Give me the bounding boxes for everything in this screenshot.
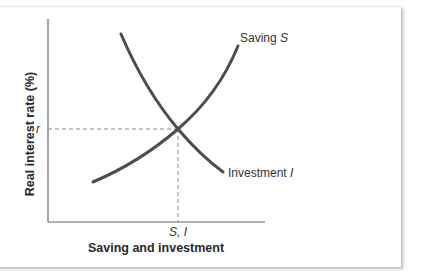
x-axis-title: Saving and investment (88, 241, 225, 255)
y-axis-title: Real interest rate (%) (23, 72, 37, 196)
si-tick-label: S, I (169, 225, 188, 239)
investment-curve-label: Investment I (228, 166, 294, 180)
investment-curve (121, 34, 223, 172)
saving-investment-chart: Saving S Investment I r S, I Saving and … (0, 0, 421, 272)
saving-curve-label: Saving S (240, 31, 288, 45)
